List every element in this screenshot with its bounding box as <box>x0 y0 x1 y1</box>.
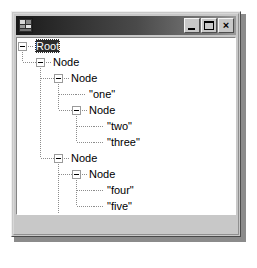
tree-item[interactable]: Node <box>17 150 235 166</box>
tree-expander-collapse-icon[interactable] <box>72 170 81 179</box>
tree-connector-line <box>64 78 70 79</box>
tree-connector-line <box>77 206 94 207</box>
close-icon: × <box>219 18 233 32</box>
tree-expander-collapse-icon[interactable] <box>54 74 63 83</box>
tree-item-label[interactable]: Node <box>89 103 115 117</box>
maximize-icon <box>204 21 214 30</box>
tree-item-label[interactable]: Node <box>71 151 97 165</box>
application-icon[interactable] <box>18 18 33 33</box>
maximize-button[interactable] <box>201 18 217 33</box>
client-area: RootNodeNode"one"Node"two""three"NodeNod… <box>16 37 236 215</box>
tree-item[interactable]: "six" <box>17 214 235 215</box>
screenshot-canvas: × RootNodeNode"one"Node"two""three"NodeN… <box>0 0 257 268</box>
tree-item[interactable]: "one" <box>17 86 235 102</box>
tree-connector-line <box>77 142 94 143</box>
tree-connector-line <box>82 174 88 175</box>
tree-item[interactable]: Node <box>17 102 235 118</box>
tree-item-label[interactable]: "four" <box>107 183 134 197</box>
application-window: × RootNodeNode"one"Node"two""three"NodeN… <box>11 11 241 237</box>
tree-item[interactable]: Node <box>17 54 235 70</box>
tree-item-label[interactable]: Node <box>89 167 115 181</box>
minimize-icon <box>188 28 195 30</box>
tree-item[interactable]: "two" <box>17 118 235 134</box>
tree-item-label[interactable]: Root <box>35 39 60 53</box>
tree-item-label[interactable]: "two" <box>107 119 132 133</box>
tree-item-label[interactable]: Node <box>53 55 79 69</box>
tree-item-label[interactable]: "five" <box>107 199 132 213</box>
tree-item-label[interactable]: "three" <box>107 135 140 149</box>
tree-item-label[interactable]: Node <box>71 71 97 85</box>
tree-connector-line <box>64 158 70 159</box>
tree-connector-line <box>94 142 104 143</box>
tree-expander-collapse-icon[interactable] <box>72 106 81 115</box>
tree-connector-line <box>82 110 88 111</box>
tree-connector-line <box>77 190 94 191</box>
tree-connector-line <box>46 62 52 63</box>
tree-connector-line <box>59 94 76 95</box>
treeview[interactable]: RootNodeNode"one"Node"two""three"NodeNod… <box>17 38 235 214</box>
tree-connector-line <box>76 94 86 95</box>
tree-item[interactable]: "three" <box>17 134 235 150</box>
minimize-button[interactable] <box>184 18 200 33</box>
tree-connector-line <box>28 46 34 47</box>
tree-connector-line <box>94 206 104 207</box>
tree-item[interactable]: Root <box>17 38 235 54</box>
tree-connector-line <box>94 190 104 191</box>
tree-connector-line <box>77 126 94 127</box>
tree-expander-collapse-icon[interactable] <box>54 154 63 163</box>
window-controls: × <box>184 18 235 33</box>
tree-expander-collapse-icon[interactable] <box>18 42 27 51</box>
tree-item[interactable]: "five" <box>17 198 235 214</box>
tree-item[interactable]: Node <box>17 166 235 182</box>
tree-expander-collapse-icon[interactable] <box>36 58 45 67</box>
close-button[interactable]: × <box>218 18 234 33</box>
window-inner-frame: × RootNodeNode"one"Node"two""three"NodeN… <box>13 13 239 235</box>
tree-item[interactable]: Node <box>17 70 235 86</box>
tree-connector-line <box>94 126 104 127</box>
tree-item-label[interactable]: "one" <box>89 87 115 101</box>
tree-item[interactable]: "four" <box>17 182 235 198</box>
title-bar[interactable]: × <box>16 16 236 35</box>
